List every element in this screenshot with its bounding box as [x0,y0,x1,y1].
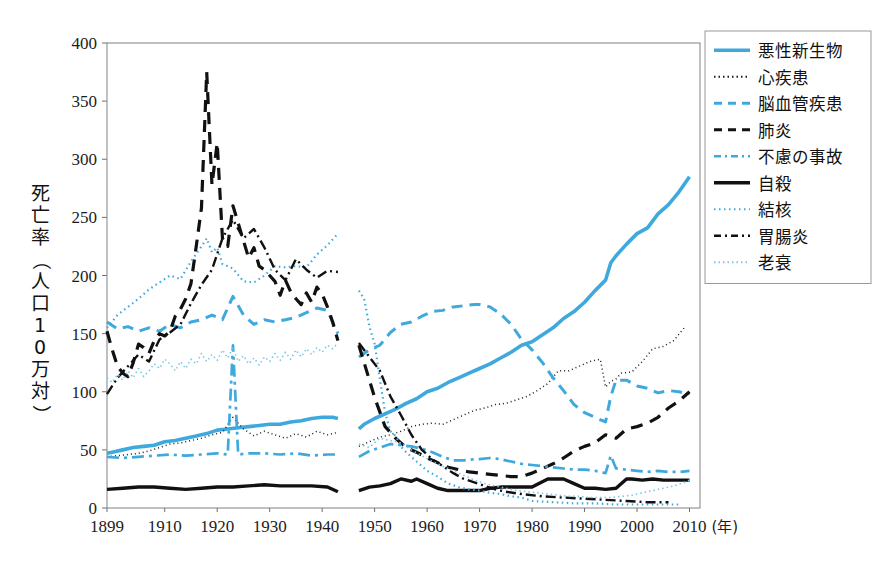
y-axis-title: 死亡率（人口10万対） [30,182,52,424]
x-tick-label: 2010 [673,517,707,536]
mortality-rate-line-chart: 死亡率（人口10万対） 050100150200250300350400 189… [0,0,880,567]
y-tick-label: 200 [72,267,98,286]
y-axis-title-char: 万 [31,358,50,380]
legend-label-accidents: 不慮の事故 [758,148,843,167]
legend-label-suicide: 自殺 [758,175,792,194]
y-tick-label: 400 [72,34,98,53]
x-tick-label: 1970 [463,517,497,536]
y-axis-title-char: 対 [31,380,50,402]
y-axis-title-char: 人 [31,270,50,292]
x-tick-label: 1950 [358,517,392,536]
y-tick-label: 350 [72,92,98,111]
y-tick-label: 0 [89,499,98,518]
plot-area-frame [107,43,700,508]
legend-label-tuberculosis: 結核 [758,201,792,220]
x-tick-label: 1910 [148,517,182,536]
x-tick-label: 1990 [568,517,602,536]
x-axis-unit-text: (年) [712,518,739,536]
x-tick-label: 1930 [253,517,287,536]
x-tick-label: 1940 [305,517,339,536]
y-axis-title-char: 死 [31,182,50,204]
x-tick-label: 1980 [515,517,549,536]
y-axis-title-char: 亡 [31,204,50,226]
y-axis-title-char: 率 [31,226,50,248]
y-axis-title-char: 口 [31,292,50,314]
y-tick-label: 300 [72,150,98,169]
x-axis-unit-label: (年) [712,518,739,536]
legend-label-malignant-neoplasm: 悪性新生物 [758,42,843,61]
chart-svg-canvas: 死亡率（人口10万対） 050100150200250300350400 189… [0,0,880,567]
y-axis-title-char: 0 [34,336,46,358]
x-tick-label: 2000 [620,517,654,536]
y-tick-label: 50 [80,441,97,460]
legend-label-gastroenteritis: 胃腸炎 [758,228,809,247]
x-tick-label: 1960 [410,517,444,536]
legend-label-heart-disease: 心疾患 [758,69,809,88]
y-axis-title-char: 1 [34,314,46,336]
chart-legend: 悪性新生物心疾患脳血管疾患肺炎不慮の事故自殺結核胃腸炎老衰 [705,31,871,284]
x-tick-label: 1899 [90,517,124,536]
y-tick-label: 100 [72,383,98,402]
y-tick-label: 250 [72,208,98,227]
y-axis-title-char: ） [30,405,52,424]
legend-label-cerebrovascular-disease: 脳血管疾患 [758,95,843,114]
legend-label-senility: 老衰 [758,254,792,273]
y-axis-title-char: （ [30,251,52,270]
legend-label-pneumonia: 肺炎 [758,122,792,141]
x-tick-label: 1920 [200,517,234,536]
y-tick-label: 150 [72,325,98,344]
